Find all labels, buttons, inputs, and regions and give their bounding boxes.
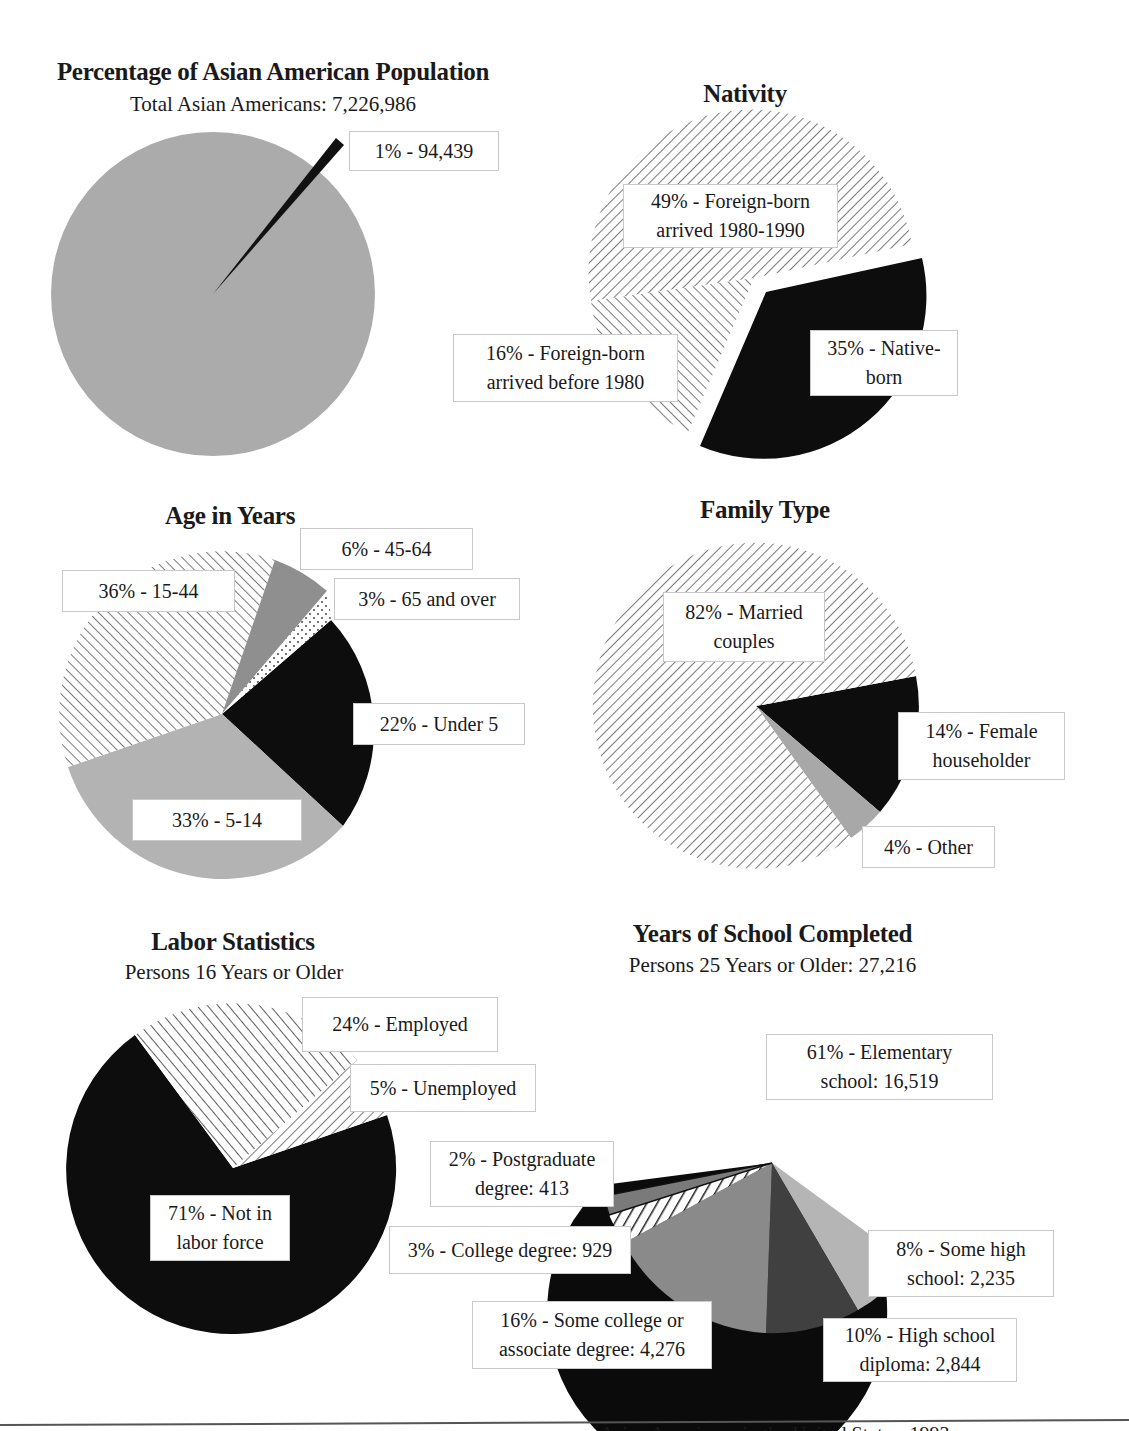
school-label-elementary-line2: school: 16,519 <box>767 1067 992 1096</box>
school-label-postgraduate-line1: 2% - Postgraduate <box>431 1145 613 1174</box>
age-chart-title: Age in Years <box>130 502 330 530</box>
nativity-label-native-born: 35% - Native- born <box>810 330 958 396</box>
school-label-some-high-line2: school: 2,235 <box>869 1264 1053 1293</box>
school-label-postgraduate-line2: degree: 413 <box>431 1174 613 1203</box>
labor-label-not-in-force-line1: 71% - Not in <box>151 1199 289 1228</box>
age-label-under-5: 22% - Under 5 <box>353 703 525 745</box>
family-label-other: 4% - Other <box>862 826 995 868</box>
nativity-label-before-1980-line1: 16% - Foreign-born <box>454 339 677 368</box>
school-label-some-high-line1: 8% - Some high <box>869 1235 1053 1264</box>
school-label-some-college-line1: 16% - Some college or <box>473 1306 711 1335</box>
population-pie <box>51 132 375 456</box>
family-chart-title: Family Type <box>660 496 870 524</box>
labor-pie <box>66 1003 396 1334</box>
school-label-elementary: 61% - Elementary school: 16,519 <box>766 1034 993 1100</box>
school-label-college: 3% - College degree: 929 <box>389 1226 631 1274</box>
nativity-label-before-1980: 16% - Foreign-born arrived before 1980 <box>453 334 678 402</box>
school-label-high-school-line1: 10% - High school <box>824 1321 1016 1350</box>
school-chart-subtitle: Persons 25 Years or Older: 27,216 <box>600 953 945 978</box>
nativity-label-before-1980-line2: arrived before 1980 <box>454 368 677 397</box>
family-label-married: 82% - Married couples <box>663 592 825 662</box>
population-chart-subtitle: Total Asian Americans: 7,226,986 <box>38 92 508 117</box>
family-label-married-line2: couples <box>664 627 824 656</box>
footer-caption: Asian Americans in the United States, 19… <box>600 1424 949 1431</box>
age-label-65-over: 3% - 65 and over <box>334 578 520 620</box>
nativity-chart-title: Nativity <box>650 80 840 108</box>
nativity-label-1980-1990-line2: arrived 1980-1990 <box>624 216 837 245</box>
school-label-postgraduate: 2% - Postgraduate degree: 413 <box>430 1141 614 1207</box>
labor-label-not-in-force: 71% - Not in labor force <box>150 1195 290 1261</box>
labor-label-unemployed: 5% - Unemployed <box>350 1064 536 1112</box>
nativity-label-1980-1990-line1: 49% - Foreign-born <box>624 187 837 216</box>
labor-label-employed: 24% - Employed <box>302 997 498 1052</box>
labor-chart-subtitle: Persons 16 Years or Older <box>103 960 365 985</box>
family-label-female-line1: 14% - Female <box>899 717 1064 746</box>
age-label-15-44: 36% - 15-44 <box>62 570 235 612</box>
school-label-some-college: 16% - Some college or associate degree: … <box>472 1301 712 1369</box>
school-chart-title: Years of School Completed <box>600 920 945 948</box>
population-chart-title: Percentage of Asian American Population <box>38 58 508 86</box>
nativity-label-1980-1990: 49% - Foreign-born arrived 1980-1990 <box>623 184 838 248</box>
family-label-female-householder: 14% - Female householder <box>898 712 1065 780</box>
age-label-45-64: 6% - 45-64 <box>300 528 473 570</box>
school-label-elementary-line1: 61% - Elementary <box>767 1038 992 1067</box>
family-label-female-line2: householder <box>899 746 1064 775</box>
school-label-high-school: 10% - High school diploma: 2,844 <box>823 1318 1017 1382</box>
labor-chart-title: Labor Statistics <box>113 928 353 956</box>
school-label-high-school-line2: diploma: 2,844 <box>824 1350 1016 1379</box>
nativity-pie <box>588 109 926 458</box>
nativity-label-native-born-line2: born <box>811 363 957 392</box>
labor-label-not-in-force-line2: labor force <box>151 1228 289 1257</box>
age-label-5-14: 33% - 5-14 <box>132 799 302 841</box>
school-label-some-college-line2: associate degree: 4,276 <box>473 1335 711 1364</box>
family-label-married-line1: 82% - Married <box>664 598 824 627</box>
nativity-label-native-born-line1: 35% - Native- <box>811 334 957 363</box>
school-label-some-high: 8% - Some high school: 2,235 <box>868 1230 1054 1297</box>
population-label-1pct: 1% - 94,439 <box>349 131 499 171</box>
